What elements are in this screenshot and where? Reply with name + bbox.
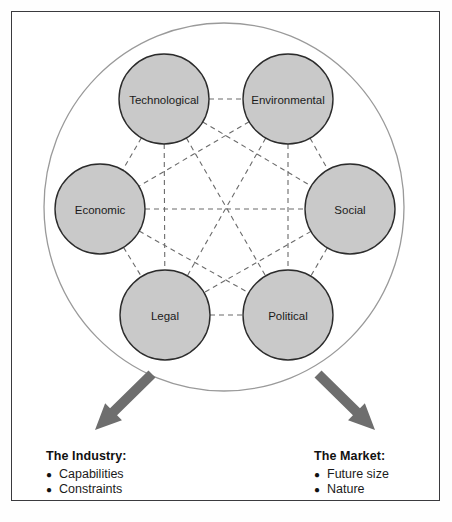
list-item: ●Future size bbox=[314, 467, 389, 482]
callout-market-list: ●Future size●Nature bbox=[314, 467, 389, 497]
bullet-icon: ● bbox=[314, 467, 320, 482]
bullet-icon: ● bbox=[314, 482, 320, 497]
outcome-arrow-group bbox=[95, 370, 375, 430]
list-item-label: Future size bbox=[327, 467, 389, 481]
bullet-icon: ● bbox=[46, 467, 52, 482]
list-item-label: Constraints bbox=[59, 482, 122, 496]
arrow-to-industry bbox=[95, 370, 156, 430]
node-label-social: Social bbox=[334, 204, 365, 216]
list-item-label: Capabilities bbox=[59, 467, 124, 481]
diagram-page: TechnologicalEnvironmentalEconomicSocial… bbox=[0, 0, 452, 522]
link-technological-legal bbox=[164, 144, 165, 270]
list-item: ●Constraints bbox=[46, 482, 126, 497]
list-item: ●Nature bbox=[314, 482, 389, 497]
node-label-political: Political bbox=[268, 310, 308, 322]
callout-industry-title: The Industry: bbox=[46, 449, 126, 463]
link-environmental-social bbox=[310, 138, 328, 170]
callout-industry: The Industry: ●Capabilities●Constraints bbox=[46, 449, 126, 497]
list-item: ●Capabilities bbox=[46, 467, 126, 482]
pestel-diagram: TechnologicalEnvironmentalEconomicSocial… bbox=[0, 0, 452, 522]
list-item-label: Nature bbox=[327, 482, 365, 496]
bullet-icon: ● bbox=[46, 482, 52, 497]
node-economic[interactable]: Economic bbox=[55, 164, 145, 254]
link-technological-economic bbox=[123, 138, 142, 170]
arrow-to-market bbox=[315, 370, 376, 430]
node-label-environmental: Environmental bbox=[251, 94, 325, 106]
link-economic-legal bbox=[124, 247, 142, 276]
node-social[interactable]: Social bbox=[305, 164, 395, 254]
callout-market-title: The Market: bbox=[314, 449, 389, 463]
node-label-technological: Technological bbox=[129, 94, 199, 106]
node-label-economic: Economic bbox=[75, 204, 126, 216]
node-legal[interactable]: Legal bbox=[120, 270, 210, 360]
link-social-political bbox=[311, 248, 328, 276]
factor-node-group: TechnologicalEnvironmentalEconomicSocial… bbox=[55, 54, 395, 360]
link-technological-political bbox=[186, 138, 265, 276]
callout-market: The Market: ●Future size●Nature bbox=[314, 449, 389, 497]
callout-industry-list: ●Capabilities●Constraints bbox=[46, 467, 126, 497]
node-technological[interactable]: Technological bbox=[119, 54, 209, 144]
node-label-legal: Legal bbox=[151, 310, 179, 322]
node-environmental[interactable]: Environmental bbox=[243, 54, 333, 144]
node-political[interactable]: Political bbox=[243, 270, 333, 360]
